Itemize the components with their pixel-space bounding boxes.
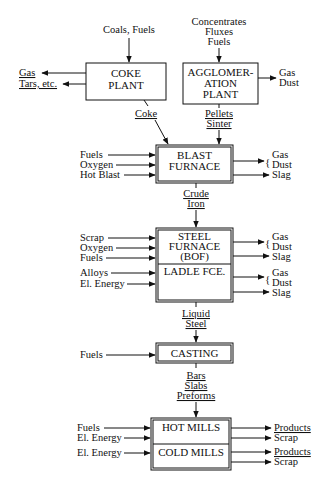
mills-box: HOT MILLS COLD MILLS: [151, 418, 231, 470]
brace-icon: {: [265, 273, 270, 285]
hot-mills-input-el-energy: El. Energy: [77, 432, 122, 443]
blast-input-hot-blast: Hot Blast: [80, 169, 120, 180]
hot-output-scrap: Scrap: [274, 432, 298, 443]
steel-output-slag: Slag: [272, 251, 291, 262]
coke-output-tars: Tars, etc.: [19, 78, 57, 89]
ladle-furnace-label: LADLE FCE.: [164, 265, 226, 277]
ladle-input-el-energy: El. Energy: [80, 278, 125, 289]
ladle-input-alloys: Alloys: [80, 267, 108, 278]
blast-furnace-label-2: FURNACE: [169, 160, 221, 172]
steel-furnace-box: STEEL FURNACE (BOF) LADLE FCE.: [156, 228, 233, 302]
cold-output-scrap: Scrap: [274, 456, 298, 467]
coke-plant-box: COKE PLANT: [86, 63, 166, 100]
agglomeration-plant-box: AGGLOMER- ATION PLANT: [183, 63, 258, 104]
brace-icon: {: [265, 156, 270, 168]
coke-plant-label-2: PLANT: [108, 79, 144, 91]
steel-furnace-label-3: (BOF): [180, 250, 209, 263]
sinter-label: Sinter: [206, 118, 232, 129]
blast-furnace-box: BLAST FURNACE: [156, 145, 233, 183]
coke-intermediate-label: Coke: [135, 108, 158, 119]
coke-plant-label-1: COKE: [111, 67, 141, 79]
steel-label: Steel: [186, 318, 207, 329]
coke-tick: [144, 100, 148, 106]
casting-box: CASTING: [156, 343, 233, 363]
coke-to-blast-arrow: [155, 120, 168, 144]
agglomeration-label-3: PLANT: [203, 88, 239, 100]
agglomeration-input-3: Fuels: [208, 36, 231, 47]
agglomeration-output-dust: Dust: [279, 77, 299, 88]
casting-input-fuels: Fuels: [80, 349, 103, 360]
hot-mills-label: HOT MILLS: [162, 421, 220, 433]
steelmaking-flow-diagram: COKE PLANT Coals, Fuels Gas Tars, etc. A…: [0, 0, 324, 490]
ladle-output-slag: Slag: [272, 287, 291, 298]
preforms-label: Preforms: [177, 390, 216, 401]
cold-mills-input-el-energy: El. Energy: [77, 447, 122, 458]
steel-input-fuels: Fuels: [80, 252, 103, 263]
coke-output-gas: Gas: [19, 67, 35, 78]
blast-output-slag: Slag: [272, 169, 291, 180]
coke-input-label: Coals, Fuels: [103, 24, 155, 35]
iron-label: Iron: [187, 198, 205, 209]
casting-label: CASTING: [171, 347, 219, 359]
cold-mills-label: COLD MILLS: [158, 446, 224, 458]
brace-icon: {: [265, 237, 270, 249]
